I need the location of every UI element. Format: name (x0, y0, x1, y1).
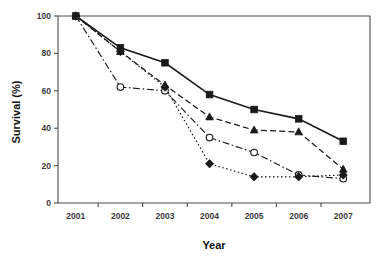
x-axis-tick-labels: 2001200220032004200520062007 (66, 211, 353, 221)
y-tick-label: 40 (42, 123, 52, 133)
marker-filled-square (251, 106, 258, 113)
marker-filled-triangle (206, 113, 214, 120)
x-tick-label: 2001 (66, 211, 85, 221)
marker-filled-triangle (250, 126, 258, 133)
x-tick-label: 2005 (245, 211, 264, 221)
marker-filled-square (162, 59, 169, 66)
x-tick-label: 2003 (156, 211, 175, 221)
x-tick-label: 2004 (200, 211, 219, 221)
y-axis-ticks (54, 16, 58, 203)
data-series (73, 13, 347, 145)
marker-filled-diamond (206, 160, 214, 168)
chart-svg: 020406080100 200120022003200420052006200… (0, 0, 392, 259)
x-tick-label: 2007 (334, 211, 353, 221)
y-tick-label: 20 (42, 161, 52, 171)
axes-frame (58, 16, 370, 203)
x-axis-title: Year (202, 239, 226, 251)
marker-open-circle (206, 134, 213, 141)
marker-filled-square (295, 116, 302, 123)
x-axis-ticks (98, 203, 321, 207)
marker-filled-square (206, 91, 213, 98)
survival-line-chart: 020406080100 200120022003200420052006200… (0, 0, 392, 259)
y-tick-label: 0 (46, 198, 51, 208)
y-tick-label: 80 (42, 48, 52, 58)
marker-open-circle (117, 84, 124, 91)
marker-open-circle (251, 149, 258, 156)
marker-filled-diamond (250, 173, 258, 181)
y-tick-label: 100 (37, 11, 51, 21)
data-series-layer (72, 12, 347, 182)
series-line (76, 16, 343, 141)
y-axis-tick-labels: 020406080100 (37, 11, 51, 208)
plot-frame (58, 16, 370, 203)
y-axis-title: Survival (%) (10, 80, 22, 143)
x-tick-label: 2002 (111, 211, 130, 221)
marker-filled-triangle (295, 128, 303, 135)
y-tick-label: 60 (42, 86, 52, 96)
marker-filled-square (340, 138, 347, 145)
x-tick-label: 2006 (289, 211, 308, 221)
